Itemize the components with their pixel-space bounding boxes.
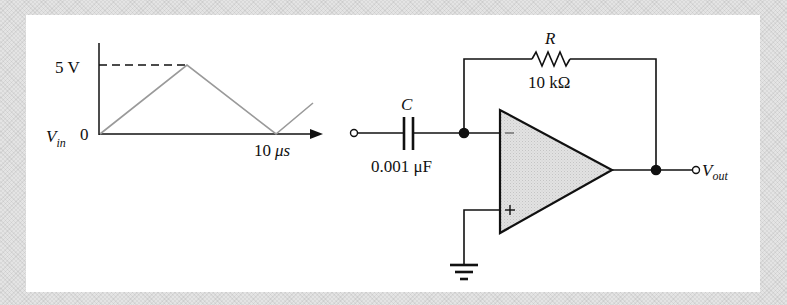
capacitor-icon — [404, 117, 413, 150]
vin-label-subscript: in — [56, 136, 65, 150]
x-axis-arrow-icon — [310, 129, 323, 139]
diagram-canvas: 5 V 0 Vin 10μs — [0, 0, 787, 305]
vin-label: Vin — [46, 127, 66, 150]
noninverting-to-ground-wire — [464, 210, 500, 265]
time-label-unit: μs — [274, 141, 291, 160]
input-waveform-graph: 5 V 0 Vin 10μs — [46, 43, 323, 160]
vout-label: Vout — [702, 161, 728, 183]
opamp-icon — [500, 110, 612, 233]
time-label: 10μs — [254, 141, 291, 160]
input-terminal — [351, 130, 358, 137]
resistor-icon — [532, 52, 570, 66]
triangle-wave-trace — [100, 65, 313, 134]
y-max-label: 5 V — [55, 58, 80, 77]
time-label-number: 10 — [254, 141, 271, 160]
y-zero-label: 0 — [80, 125, 89, 144]
capacitor-value-label: 0.001 μF — [371, 157, 432, 176]
resistor-value-label: 10 kΩ — [528, 73, 570, 92]
capacitor-name-label: C — [401, 95, 413, 114]
ground-icon — [450, 265, 478, 279]
resistor-name-label: R — [544, 29, 556, 48]
vout-label-subscript: out — [712, 169, 728, 183]
output-terminal — [693, 167, 700, 174]
